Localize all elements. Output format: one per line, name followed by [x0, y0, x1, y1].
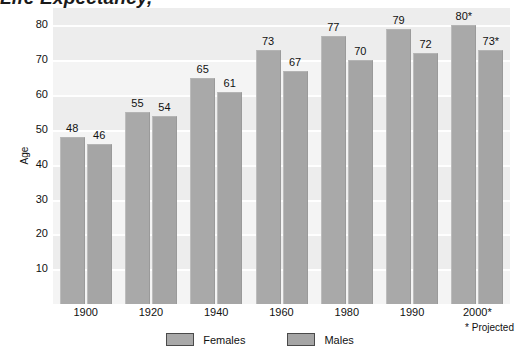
band-30 [53, 200, 510, 235]
y-tick-30: 30 [16, 193, 48, 205]
x-tick-1980: 1980 [314, 306, 379, 318]
projection-footnote: * Projected [465, 322, 514, 333]
bar-value-females-1940: 65 [184, 63, 221, 75]
x-tick-1990: 1990 [379, 306, 444, 318]
y-tick-40: 40 [16, 158, 48, 170]
plot-area [53, 8, 510, 304]
bar-males-1990[interactable] [413, 53, 438, 304]
y-tick-70: 70 [16, 53, 48, 65]
gridline-40 [53, 165, 510, 167]
legend-label-males: Males [324, 334, 353, 346]
x-tick-1900: 1900 [53, 306, 118, 318]
bar-females-1900[interactable] [60, 137, 85, 304]
chart-legend: Females Males [0, 333, 520, 346]
bar-females-1960[interactable] [256, 50, 281, 304]
gridline-30 [53, 200, 510, 202]
bar-females-1990[interactable] [386, 29, 411, 304]
gridline-80 [53, 25, 510, 27]
bar-value-males-1960: 67 [277, 56, 314, 68]
y-tick-50: 50 [16, 123, 48, 135]
band-50 [53, 130, 510, 165]
bar-females-1980[interactable] [321, 36, 346, 304]
y-tick-10: 10 [16, 262, 48, 274]
bar-value-males-1920: 54 [146, 101, 183, 113]
bar-value-females-1980: 77 [315, 21, 352, 33]
gridline-10 [53, 269, 510, 271]
bar-value-males-2000: 73* [472, 35, 509, 47]
y-tick-60: 60 [16, 88, 48, 100]
bar-males-2000[interactable] [478, 50, 503, 304]
y-tick-80: 80 [16, 18, 48, 30]
bar-value-males-1900: 46 [81, 129, 118, 141]
bar-value-females-2000: 80* [445, 10, 482, 22]
bar-females-1940[interactable] [190, 78, 215, 304]
x-tick-1940: 1940 [184, 306, 249, 318]
legend-label-females: Females [203, 334, 245, 346]
gridline-20 [53, 234, 510, 236]
band-10 [53, 269, 510, 304]
bar-females-2000[interactable] [451, 25, 476, 304]
bar-value-males-1990: 72 [407, 38, 444, 50]
y-tick-20: 20 [16, 227, 48, 239]
bar-males-1960[interactable] [283, 71, 308, 304]
bar-males-1920[interactable] [152, 116, 177, 304]
bar-males-1980[interactable] [348, 60, 373, 304]
bar-value-males-1980: 70 [342, 45, 379, 57]
legend-swatch-males [287, 333, 315, 346]
bar-value-males-1940: 61 [211, 77, 248, 89]
legend-item-males[interactable]: Males [287, 333, 353, 346]
legend-swatch-females [166, 333, 194, 346]
bar-females-1920[interactable] [125, 112, 150, 304]
bar-males-1900[interactable] [87, 144, 112, 304]
bar-value-females-1960: 73 [250, 35, 287, 47]
x-tick-1920: 1920 [118, 306, 183, 318]
bar-males-1940[interactable] [217, 92, 242, 304]
chart-root: Life Expectancy, Age 8070605040302010 48… [0, 0, 520, 352]
gridline-50 [53, 130, 510, 132]
x-tick-1960: 1960 [249, 306, 314, 318]
bar-value-females-1990: 79 [380, 14, 417, 26]
legend-item-females[interactable]: Females [166, 333, 245, 346]
x-tick-2000: 2000* [445, 306, 510, 318]
